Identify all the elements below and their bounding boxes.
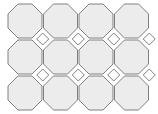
octagon-tile	[8, 76, 42, 110]
octagon-tile	[44, 76, 78, 110]
octagon-tile	[44, 40, 78, 74]
octagon-tile	[8, 40, 42, 74]
octagon-tile	[115, 40, 149, 74]
octagon-tile	[79, 76, 113, 110]
octagon-tile	[115, 76, 149, 110]
octagon-tile	[8, 4, 42, 38]
tiling-canvas	[0, 0, 158, 114]
octagon-tile	[115, 4, 149, 38]
tiling-figure	[0, 0, 158, 114]
octagon-tile	[79, 4, 113, 38]
octagon-tile	[44, 4, 78, 38]
octagon-tile	[79, 40, 113, 74]
